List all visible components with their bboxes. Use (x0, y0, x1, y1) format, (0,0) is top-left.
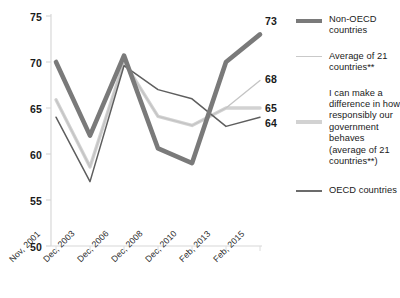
line-chart: 75 70 65 60 55 50 (0, 0, 400, 298)
legend-item-oecd-countries: OECD countries (296, 185, 400, 196)
legend-label-average-of-21-countries: Average of 21 countries** (329, 51, 400, 74)
legend-swatch-average-21-line-icon (296, 56, 322, 57)
series-paths (56, 34, 260, 181)
end-label-non-oecd: 73 (265, 16, 277, 27)
legend-item-non-oecd-countries: Non-OECD countries (296, 14, 400, 37)
end-label-oecd: 64 (265, 118, 277, 129)
series-line-i-can-make-a-difference (56, 62, 260, 167)
legend-label-oecd-countries: OECD countries (329, 185, 397, 196)
legend-label-i-can-make-a-difference: I can make a difference in how responsib… (329, 88, 400, 168)
legend-label-non-oecd-countries: Non-OECD countries (329, 14, 400, 37)
legend-swatch-oecd-line-icon (296, 190, 322, 192)
legend-item-average-of-21-countries: Average of 21 countries** (296, 51, 400, 74)
legend-swatch-non-oecd-line-icon (296, 19, 322, 23)
chart-legend: Non-OECD countries Average of 21 countri… (296, 12, 400, 206)
y-axis-ticks (46, 16, 51, 246)
series-line-non-oecd-countries (56, 34, 260, 163)
end-label-i-can-make-a-difference: 65 (265, 103, 277, 114)
legend-swatch-i-can-make-a-difference-line-icon (296, 120, 322, 124)
legend-item-i-can-make-a-difference: I can make a difference in how responsib… (296, 88, 400, 168)
end-label-average-21: 68 (265, 74, 277, 85)
